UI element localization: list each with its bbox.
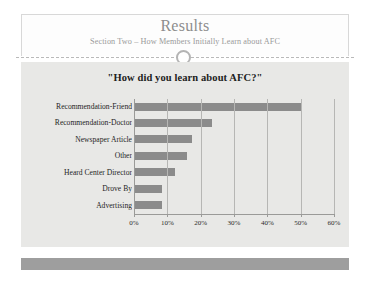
chart-category-label: Heard Center Director [25,165,132,181]
chart-category-label: Other [25,148,132,164]
chart-bar-row [135,148,336,164]
chart-bar [135,168,175,176]
chart-gridline [167,99,168,214]
chart-category-label: Recommendation-Friend [25,99,132,115]
chart-plot-area: 0%10%20%30%40%50%60% [134,99,336,251]
chart-tick-label: 10% [154,219,180,227]
chart-bar [135,135,192,143]
chart-bars [135,99,336,214]
chart-tick-mark [267,214,268,217]
chart-tick-mark [134,214,135,217]
chart-tick-mark [167,214,168,217]
chart-category-label: Advertising [25,198,132,214]
chart-gridline [334,99,335,214]
chart-tick-label: 50% [288,219,314,227]
chart-bar [135,201,162,209]
chart-tick-label: 40% [254,219,280,227]
chart-tick-mark [201,214,202,217]
chart-bar-row [135,181,336,197]
chart-gridline [301,99,302,214]
chart-tick-mark [301,214,302,217]
chart-bar [135,103,302,111]
chart-gridline [201,99,202,214]
chart-tick-label: 0% [121,219,147,227]
chart-gridline [267,99,268,214]
chart-category-axis: Recommendation-FriendRecommendation-Doct… [25,99,132,214]
chart-tick-label: 30% [221,219,247,227]
chart-category-label: Recommendation-Doctor [25,115,132,131]
chart-bar [135,152,187,160]
chart-bar-row [135,198,336,214]
chart-title: "How did you learn about AFC?" [21,72,349,83]
chart-tick-mark [334,214,335,217]
slide-body: "How did you learn about AFC?" Recommend… [21,62,349,247]
page-title: Results [22,17,348,35]
chart-category-label: Newspaper Article [25,132,132,148]
chart-bar [135,185,162,193]
chart-category-label: Drove By [25,181,132,197]
slide: Results Section Two – How Members Initia… [0,0,370,281]
chart-gridline [234,99,235,214]
chart-tick-label: 20% [188,219,214,227]
chart-bar-row [135,115,336,131]
chart-tick-mark [234,214,235,217]
chart-bar-row [135,132,336,148]
slide-footer-band [21,258,349,270]
chart-tick-label: 60% [321,219,347,227]
chart-bar-row [135,165,336,181]
chart-bar-row [135,99,336,115]
page-subtitle: Section Two – How Members Initially Lear… [22,37,348,47]
